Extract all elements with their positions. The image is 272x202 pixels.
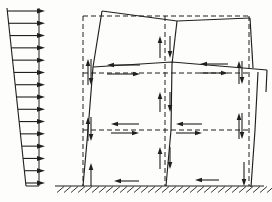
- wind-load: [7, 8, 45, 186]
- undeformed-frame-dashed: [83, 16, 249, 186]
- internal-force-arrows: [86, 36, 245, 169]
- deformed-frame-solid: [83, 11, 267, 187]
- figure-canvas: [0, 0, 272, 202]
- structural-frame-diagram: [0, 0, 272, 202]
- ground-hatching: [55, 186, 272, 193]
